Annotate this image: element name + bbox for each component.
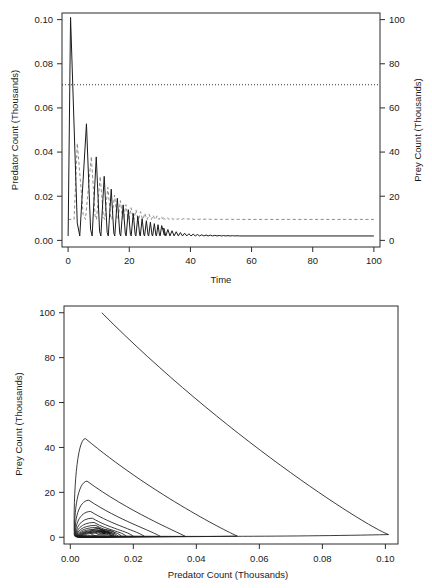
chart-panel-timeseries: 0204060801000.000.020.040.060.080.100204… [0,0,432,294]
series-line-predator [68,17,374,236]
timeseries-x-axis-title: Time [211,274,232,285]
x-axis-tick-label: 100 [366,255,382,266]
x-axis-tick-label: 0 [65,255,70,266]
phase-x-axis-title: Predator Count (Thousands) [168,569,288,580]
x-axis-tick-label: 0.06 [250,553,269,564]
y-axis-tick-label: 100 [39,307,55,318]
timeseries-y-axis-title: Predator Count (Thousands) [9,70,20,190]
x-axis-tick-label: 0.04 [187,553,206,564]
phase-y-axis-title: Prey Count (Thousands) [13,372,24,476]
y2-axis-tick-label: 20 [389,191,400,202]
x-axis-tick-label: 0.10 [376,553,395,564]
timeseries-svg: 0204060801000.000.020.040.060.080.100204… [0,0,432,294]
y-axis-tick-label: 0.10 [35,14,54,25]
x-axis-tick-label: 20 [124,255,135,266]
series-line-phase-trajectory [74,313,388,537]
figure-container: 0204060801000.000.020.040.060.080.100204… [0,0,432,588]
y2-axis-tick-label: 40 [389,146,400,157]
y-axis-tick-label: 0.08 [35,58,54,69]
x-axis-tick-label: 0.00 [61,553,80,564]
y-axis-tick-label: 20 [44,487,55,498]
y2-axis-tick-label: 100 [389,14,405,25]
timeseries-y2-axis-title: Prey Count (Thousands) [412,78,423,182]
phase-plot-frame [64,306,398,544]
x-axis-tick-label: 0.02 [124,553,143,564]
y2-axis-tick-label: 0 [389,235,394,246]
y-axis-tick-label: 40 [44,442,55,453]
y-axis-tick-label: 0.04 [35,146,54,157]
y-axis-tick-label: 80 [44,352,55,363]
y-axis-tick-label: 0.00 [35,235,54,246]
x-axis-tick-label: 40 [185,255,196,266]
chart-panel-phase: 0.000.020.040.060.080.10020406080100 Pre… [0,294,432,588]
series-line-prey [68,143,374,219]
x-axis-tick-label: 80 [307,255,318,266]
y2-axis-tick-label: 60 [389,102,400,113]
phase-svg: 0.000.020.040.060.080.10020406080100 Pre… [0,294,432,588]
x-axis-tick-label: 60 [246,255,257,266]
y-axis-tick-label: 0 [50,532,55,543]
y-axis-tick-label: 0.06 [35,102,54,113]
x-axis-tick-label: 0.08 [313,553,332,564]
y2-axis-tick-label: 80 [389,58,400,69]
y-axis-tick-label: 0.02 [35,191,54,202]
y-axis-tick-label: 60 [44,397,55,408]
